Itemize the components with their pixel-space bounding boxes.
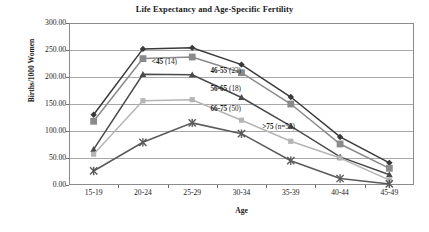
x-axis-tick-mark (118, 185, 119, 188)
chart-container: Life Expectancy and Age-Specific Fertili… (0, 0, 429, 232)
x-axis-tick-mark (315, 185, 316, 188)
series-label-count: (n=53) (273, 123, 294, 131)
y-axis-tick-label: 300.00 (4, 19, 66, 27)
series-label-4: 66-75 (50) (210, 105, 241, 113)
series-label-group: 66-75 (210, 105, 227, 113)
series-label-count: (50) (227, 105, 241, 113)
x-axis-tick-label: 25-29 (183, 188, 201, 197)
series-label-count: (23) (227, 67, 241, 75)
x-axis-tick-label: 30-34 (233, 188, 251, 197)
series-label-1: <45 (14) (152, 58, 177, 66)
gridline (70, 50, 413, 51)
plot-area (69, 23, 414, 185)
y-axis-tick-label: 0.00 (4, 181, 66, 189)
x-axis-ticks: 15-1920-2425-2930-3435-3940-4445-49 (69, 188, 414, 202)
series-label-group: 56-65 (210, 85, 227, 93)
gridline (70, 131, 413, 132)
x-axis-title: Age (69, 206, 414, 215)
x-axis-tick-mark (266, 185, 267, 188)
y-axis-tick-label: 250.00 (4, 46, 66, 54)
gridline (70, 77, 413, 78)
y-axis-tick-mark (66, 185, 69, 186)
y-axis-tick-label: 200.00 (4, 73, 66, 81)
x-axis-tick-label: 35-39 (282, 188, 300, 197)
y-axis-ticks: 0.0050.00100.00150.00200.00250.00300.00 (0, 23, 66, 185)
y-axis-tick-label: 100.00 (4, 127, 66, 135)
x-axis-tick-mark (365, 185, 366, 188)
x-axis-tick-label: 15-19 (85, 188, 103, 197)
gridline (70, 104, 413, 105)
series-label-group: 46-55 (210, 67, 227, 75)
series-label-5: >75 (n=53) (262, 123, 295, 131)
series-label-3: 56-65 (18) (210, 85, 241, 93)
x-axis-tick-mark (168, 185, 169, 188)
series-label-2: 46-55 (23) (210, 67, 241, 75)
x-axis-tick-label: 45-49 (380, 188, 398, 197)
x-axis-tick-label: 40-44 (331, 188, 349, 197)
series-label-count: (14) (163, 58, 177, 66)
chart-title: Life Expectancy and Age-Specific Fertili… (0, 4, 429, 14)
series-label-count: (18) (227, 85, 241, 93)
y-axis-tick-label: 50.00 (4, 154, 66, 162)
x-axis-tick-mark (217, 185, 218, 188)
gridline (70, 158, 413, 159)
y-axis-tick-label: 150.00 (4, 100, 66, 108)
series-label-group: <45 (152, 58, 163, 66)
x-axis-tick-label: 20-24 (134, 188, 152, 197)
series-label-group: >75 (262, 123, 273, 131)
